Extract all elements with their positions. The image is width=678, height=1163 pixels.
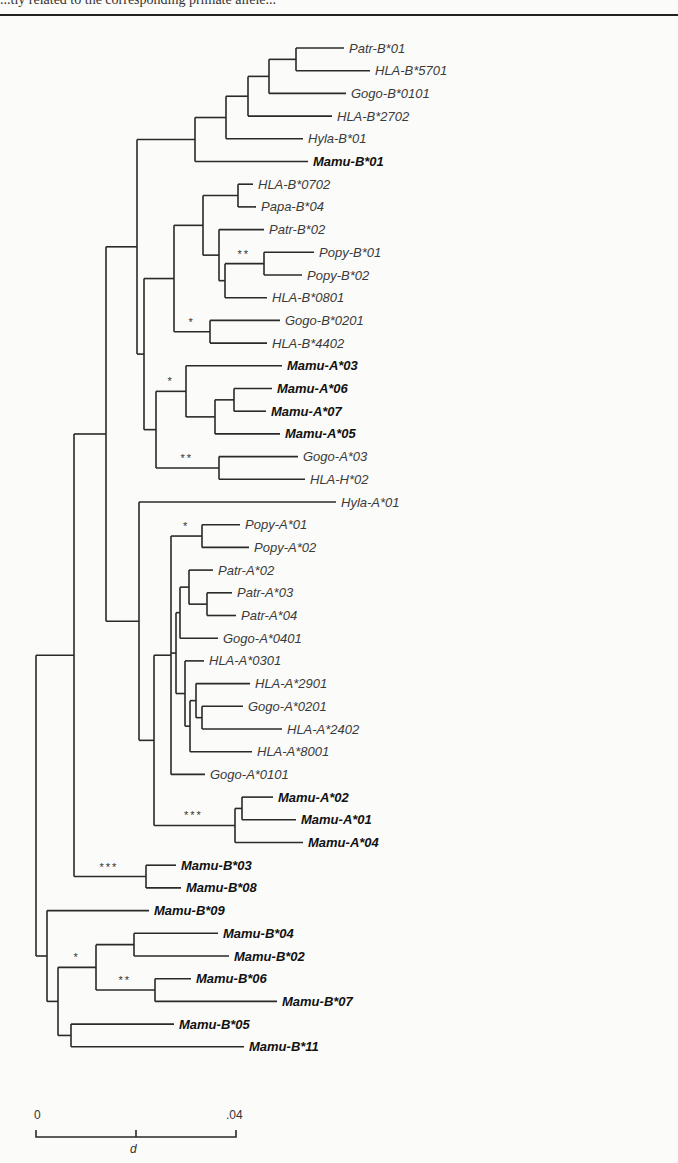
leaf-label: HLA-B*4402: [272, 336, 345, 351]
leaf-label: Popy-B*01: [319, 245, 381, 260]
leaf-label: Gogo-B*0201: [285, 313, 364, 328]
scale-axis-label: d: [130, 1142, 137, 1156]
tree-support-marks: ****************: [74, 248, 251, 986]
leaf-label: Mamu-B*07: [282, 994, 354, 1009]
bootstrap-support-mark: *: [183, 520, 189, 532]
leaf-label: Mamu-B*09: [154, 903, 226, 918]
leaf-label: Popy-A*02: [254, 540, 317, 555]
bootstrap-support-mark: **: [181, 452, 194, 464]
phylogenetic-tree: Patr-B*01HLA-B*5701Gogo-B*0101HLA-B*2702…: [0, 0, 678, 1163]
leaf-label: Patr-B*02: [269, 222, 326, 237]
bootstrap-support-mark: *: [168, 375, 174, 387]
leaf-label: HLA-B*0702: [258, 177, 331, 192]
leaf-label: HLA-A*8001: [257, 744, 329, 759]
leaf-label: Mamu-A*04: [308, 835, 380, 850]
leaf-label: Mamu-B*06: [196, 971, 268, 986]
leaf-label: Patr-A*04: [241, 608, 297, 623]
bootstrap-support-mark: **: [238, 248, 251, 260]
leaf-label: Mamu-A*05: [285, 426, 357, 441]
leaf-label: Gogo-A*0401: [223, 631, 302, 646]
bootstrap-support-mark: **: [119, 974, 132, 986]
bootstrap-support-mark: *: [189, 316, 195, 328]
bootstrap-support-mark: *: [74, 951, 80, 963]
leaf-label: Gogo-A*03: [303, 449, 368, 464]
leaf-label: Mamu-B*01: [313, 154, 384, 169]
leaf-label: HLA-B*2702: [337, 109, 410, 124]
leaf-label: Gogo-A*0101: [210, 767, 289, 782]
leaf-label: Hyla-B*01: [308, 131, 367, 146]
leaf-label: Gogo-A*0201: [248, 699, 327, 714]
leaf-label: Popy-A*01: [245, 517, 307, 532]
leaf-label: Mamu-B*05: [179, 1017, 251, 1032]
scale-bar: 0 .04 d: [34, 1108, 243, 1156]
leaf-label: Patr-A*02: [218, 563, 275, 578]
leaf-label: HLA-B*0801: [272, 290, 344, 305]
leaf-label: Mamu-B*08: [186, 880, 258, 895]
bootstrap-support-mark: ***: [100, 861, 119, 873]
scale-end-label: .04: [226, 1108, 243, 1122]
tree-leaf-labels: Patr-B*01HLA-B*5701Gogo-B*0101HLA-B*2702…: [154, 41, 447, 1055]
leaf-label: Hyla-A*01: [341, 495, 400, 510]
leaf-label: Mamu-A*03: [287, 358, 359, 373]
leaf-label: HLA-A*2901: [255, 676, 327, 691]
leaf-label: Mamu-B*02: [234, 949, 306, 964]
bootstrap-support-mark: ***: [184, 809, 203, 821]
scale-bar-line: [36, 1130, 236, 1137]
leaf-label: Mamu-B*11: [249, 1039, 319, 1054]
leaf-label: Gogo-B*0101: [351, 86, 430, 101]
leaf-label: Mamu-B*04: [223, 926, 295, 941]
leaf-label: Patr-A*03: [237, 585, 294, 600]
leaf-label: Mamu-B*03: [181, 858, 253, 873]
tree-branches: [36, 48, 370, 1047]
leaf-label: HLA-H*02: [310, 472, 369, 487]
leaf-label: Patr-B*01: [349, 41, 405, 56]
scale-start-label: 0: [34, 1108, 41, 1122]
leaf-label: HLA-B*5701: [375, 63, 447, 78]
leaf-label: HLA-A*2402: [287, 722, 360, 737]
leaf-label: Mamu-A*01: [301, 812, 372, 827]
leaf-label: HLA-A*0301: [209, 653, 281, 668]
leaf-label: Mamu-A*07: [271, 404, 343, 419]
leaf-label: Popy-B*02: [307, 268, 370, 283]
leaf-label: Mamu-A*06: [277, 381, 349, 396]
leaf-label: Mamu-A*02: [278, 790, 350, 805]
leaf-label: Papa-B*04: [261, 199, 324, 214]
